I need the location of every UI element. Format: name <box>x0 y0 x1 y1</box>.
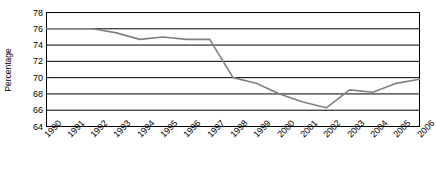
grid-lines <box>47 29 420 110</box>
plot-frame <box>47 13 420 127</box>
data-series-percentage <box>47 29 420 108</box>
